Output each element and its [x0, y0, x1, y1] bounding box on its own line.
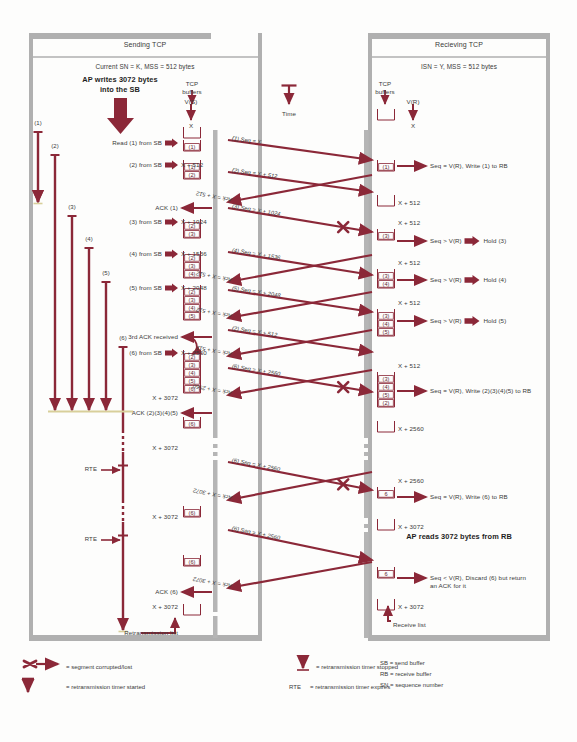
- retransmission-timer-3: [68, 216, 77, 410]
- legend-abbrev-sb: SB = send buffer: [380, 660, 425, 666]
- sender-seq-value-6: X + 2048: [181, 284, 207, 291]
- receiver-buffer-stack-10: [378, 519, 395, 530]
- sender-seq-value-2: X + 512: [181, 161, 203, 168]
- legend-rte-prefix: RTE: [289, 684, 301, 690]
- buffer-cell-label: (5): [189, 313, 196, 319]
- receiver-tcp-buffers-label-1: TCP: [379, 80, 392, 87]
- sender-read-arrow-4: [165, 217, 178, 226]
- sender-read-label-1: Read (1) from SB: [112, 139, 162, 146]
- sender-ack-label-3: ACK (1): [155, 204, 178, 211]
- sender-read-arrow-6: [165, 283, 178, 292]
- retransmission-timer-1: [34, 132, 43, 204]
- ap-write-big-arrow: [107, 98, 134, 134]
- legend-cross-icon: [24, 661, 36, 667]
- receiver-action-text-6: Seq = V(R), Write (6) to RB: [430, 493, 508, 500]
- buffer-cell-label: (5): [383, 392, 390, 398]
- timer-label-2: (2): [51, 143, 59, 150]
- buffer-cell-label: (6): [189, 510, 196, 516]
- buffer-cell-label: (2): [383, 400, 390, 406]
- buffer-cell-label: (3): [383, 233, 390, 239]
- buffer-cell-label: (6): [189, 559, 196, 565]
- receiver-buffer-stack-1: [378, 109, 395, 120]
- rte-label-1: RTE: [85, 466, 97, 473]
- receiver-buffer-stack-8: [378, 421, 395, 432]
- sender-note-11: X + 3072: [152, 444, 178, 451]
- sender-note-12: X + 3072: [152, 513, 178, 520]
- rte-label-2: RTE: [85, 536, 97, 543]
- receiver-buffer-value-8: X + 2560: [398, 425, 424, 432]
- buffer-cell-label: (4): [189, 271, 196, 277]
- ap-read-note: AP reads 3072 bytes from RB: [406, 533, 512, 542]
- receiver-hold-text-2: Hold (3): [484, 237, 507, 244]
- buffer-container: [378, 599, 395, 610]
- sender-read-label-2: (2) from SB: [129, 161, 162, 168]
- receiver-buffer-stack-3: [378, 195, 395, 206]
- sender-read-label-5: (4) from SB: [129, 250, 162, 257]
- sender-note-9: X + 3072: [152, 394, 178, 401]
- sender-note-14: X + 3072: [152, 603, 178, 610]
- sender-buffer-stack-11: [184, 604, 201, 615]
- legend-timer-started-text: = retransmission timer started: [66, 684, 145, 690]
- buffer-cell-label: 6: [384, 491, 387, 497]
- buffer-container: [378, 109, 395, 120]
- buffer-cell-label: (3): [383, 376, 390, 382]
- buffer-cell-label: (3): [189, 362, 196, 368]
- retransmission-timer-2: [51, 155, 60, 410]
- buffer-cell-label: (4): [189, 305, 196, 311]
- buffer-container: [378, 421, 395, 432]
- receiver-buffer-value-3: X + 512: [398, 199, 420, 206]
- ap-write-note-line1: AP writes 3072 bytes: [82, 76, 157, 85]
- buffer-cell-label: (4): [383, 281, 390, 287]
- receive-list-arrow: [388, 606, 391, 621]
- legend-corrupted-text: = segment corrupted/lost: [66, 664, 132, 670]
- receiver-buffer-value-10: X + 3072: [398, 523, 424, 530]
- hold-arrow-2: [465, 236, 480, 246]
- sender-seq-value-5: X + 1536: [181, 250, 207, 257]
- ap-write-note-line2: into the SB: [100, 86, 140, 95]
- vs-value: X: [189, 122, 193, 129]
- sender-tcp-buffers-label-1: TCP: [186, 80, 199, 87]
- sender-read-label-8: (6) from SB: [129, 349, 162, 356]
- sender-tcp-buffers-label-2: buffers: [182, 88, 202, 95]
- sender-read-arrow-2: [165, 160, 178, 169]
- buffer-cell-label: (3): [189, 263, 196, 269]
- receiver-action-text-1: Seq = V(R), Write (1) to RB: [430, 162, 508, 169]
- buffer-container: [184, 604, 201, 615]
- buffer-cell-label: (4): [383, 384, 390, 390]
- buffer-cell-label: (3): [189, 297, 196, 303]
- buffer-cell-label: (4): [383, 321, 390, 327]
- legend-abbrev-rb: RB = receive buffer: [380, 671, 431, 677]
- receiver-buffer-value-above-5: X + 512: [398, 259, 420, 266]
- receiver-tcp-buffers-label-2: buffers: [375, 88, 395, 95]
- receiver-action-text-7: Seq < V(R), Discard (6) but return: [430, 574, 526, 581]
- receiver-action-text-3: Seq > V(R): [430, 276, 462, 283]
- buffer-cell-label: (3): [383, 273, 390, 279]
- buffer-cell-label: (4): [189, 370, 196, 376]
- sender-ack-label-13: ACK (6): [155, 588, 178, 595]
- hold-arrow-4: [465, 316, 480, 326]
- sending-panel-title: Sending TCP: [124, 41, 167, 49]
- receiver-buffer-value-above-7: X + 512: [398, 362, 420, 369]
- buffer-cell-label: (2): [189, 172, 196, 178]
- buffer-cell-label: (6): [189, 421, 196, 427]
- vs-label: V(S): [185, 98, 198, 105]
- retransmission-timers-layer: [34, 132, 134, 632]
- buffer-container: [378, 195, 395, 206]
- receiver-action-text2-7: an ACK for it: [430, 582, 466, 589]
- timer-label-6: (6): [119, 335, 127, 342]
- sending-panel-subtitle: Current SN = K, MSS = 512 bytes: [95, 63, 194, 70]
- sender-read-label-6: (5) from SB: [129, 284, 162, 291]
- buffer-cell-label: (1): [383, 164, 390, 170]
- retransmission-timer-5: [102, 282, 111, 410]
- retransmission-timer-4: [85, 248, 94, 410]
- receiver-action-text-4: Seq > V(R): [430, 317, 462, 324]
- hold-arrow-3: [465, 275, 480, 285]
- sender-read-label-4: (3) from SB: [129, 218, 162, 225]
- sender-read-arrow-1: [165, 138, 178, 147]
- segment-arrow-12: [228, 370, 372, 395]
- buffer-container: [378, 519, 395, 530]
- sender-read-arrow-5: [165, 249, 178, 258]
- buffer-cell-label: 6: [384, 571, 387, 577]
- receiving-panel-title: Recieving TCP: [435, 41, 483, 49]
- buffer-cell-label: (3): [383, 313, 390, 319]
